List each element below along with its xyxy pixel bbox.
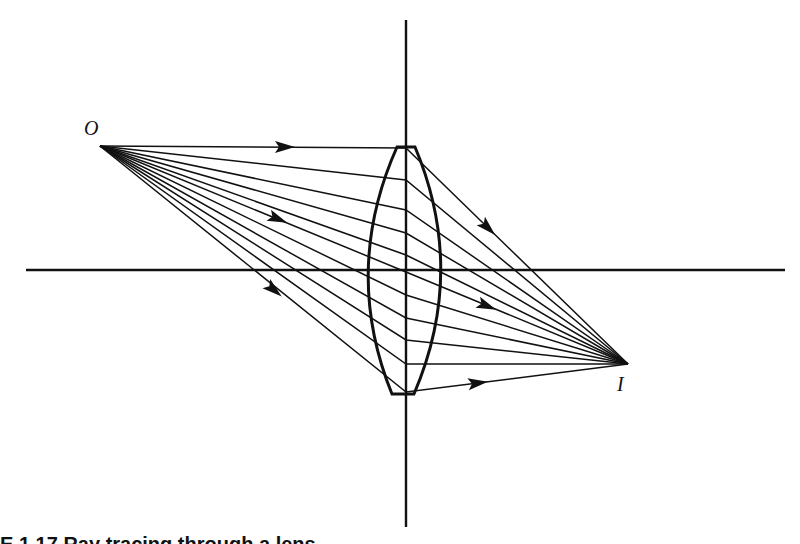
arrowhead-icon: [262, 279, 285, 301]
diagram-canvas: [0, 0, 800, 544]
ray-direction-arrows: [262, 141, 499, 390]
arrowhead-shape: [262, 279, 285, 301]
axes: [26, 20, 785, 527]
arrowhead-shape: [467, 376, 488, 390]
figure-caption: E 1.17 Ray tracing through a lens: [0, 532, 800, 544]
ray: [100, 146, 628, 364]
lens-ray-diagram: O I: [0, 0, 800, 544]
arrowhead-icon: [467, 376, 488, 390]
object-label: O: [84, 118, 98, 138]
image-label: I: [617, 374, 624, 394]
